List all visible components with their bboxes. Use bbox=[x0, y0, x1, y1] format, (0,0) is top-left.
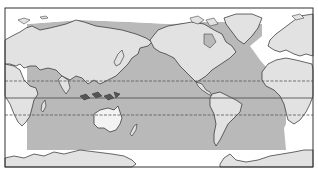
map-svg bbox=[0, 0, 318, 172]
world-map bbox=[0, 0, 318, 172]
